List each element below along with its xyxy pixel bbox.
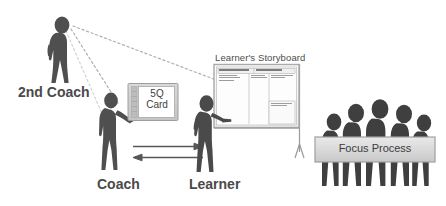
diagram-canvas: 2nd Coach Coach Learner 5Q Card Learner'… <box>0 0 446 206</box>
label-learner: Learner <box>189 177 240 191</box>
storyboard-header-section-1 <box>219 69 249 72</box>
storyboard-cell-target-condition <box>219 75 240 82</box>
five-q-card-line1: 5Q <box>138 88 176 99</box>
sight-line-to-coach-alt <box>66 31 103 116</box>
exchange-arrows <box>133 143 203 161</box>
storyboard-title: Learner's Storyboard <box>215 52 305 63</box>
label-coach: Coach <box>97 177 140 191</box>
second-coach-figure <box>48 16 70 83</box>
storyboard-header-section-2 <box>256 69 282 72</box>
arrow-coach-to-learner <box>133 143 203 150</box>
storyboard-cell-parking-lot <box>271 103 292 108</box>
label-second-coach: 2nd Coach <box>18 85 90 99</box>
five-q-card-text: 5Q Card <box>138 88 176 110</box>
arrow-learner-to-coach <box>133 154 203 161</box>
storyboard-cell-experiments-record <box>271 75 293 80</box>
focus-process-label: Focus Process <box>323 142 427 154</box>
five-q-card-line2: Card <box>138 99 176 110</box>
storyboard-cell-current-condition <box>251 75 267 80</box>
